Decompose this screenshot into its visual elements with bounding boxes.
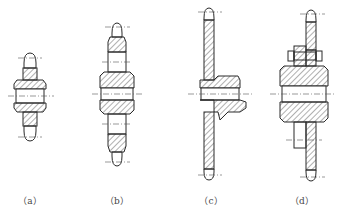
panel-label-a: （a） xyxy=(18,194,41,207)
sprocket-diagram xyxy=(0,0,340,217)
sprocket-a xyxy=(8,53,54,141)
sprocket-c xyxy=(188,8,252,180)
panel-label-b: （b） xyxy=(105,194,129,207)
panel-label-d: （d） xyxy=(290,194,314,207)
panel-label-c: （c） xyxy=(199,194,222,207)
sprocket-b xyxy=(92,23,142,166)
sprocket-d xyxy=(270,10,336,181)
